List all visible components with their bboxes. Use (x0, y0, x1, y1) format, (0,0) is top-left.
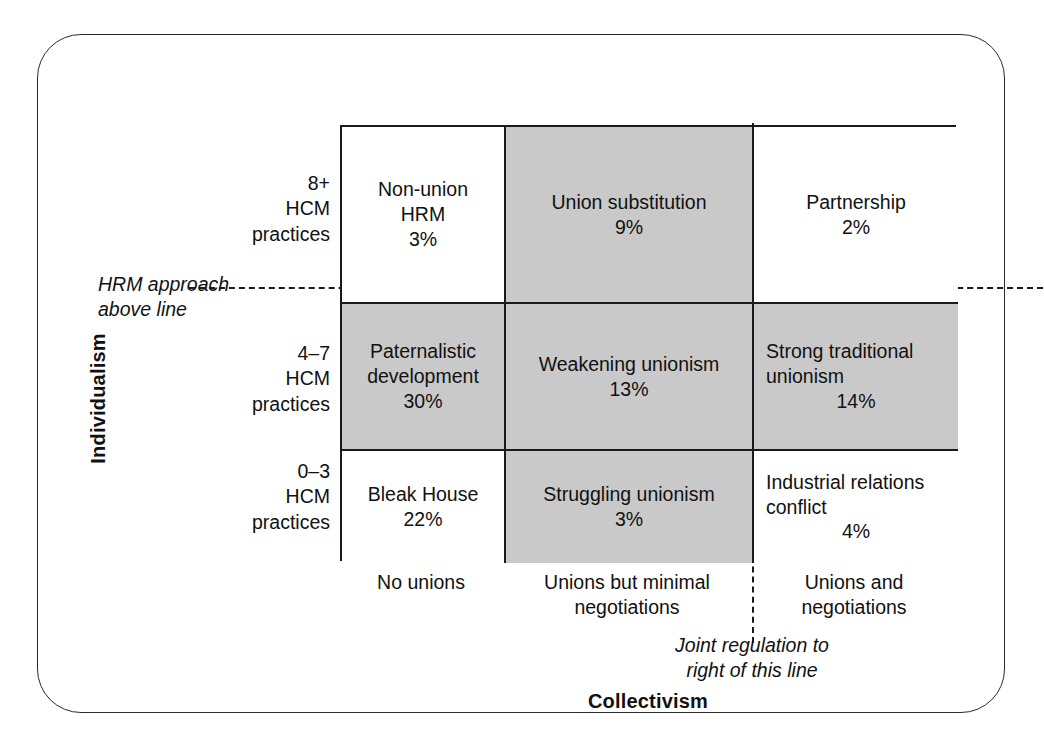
joint-regulation-annotation-line2: right of this line (598, 658, 906, 683)
matrix-cell-strong-traditional-unionism: Strong traditional unionism 14% (754, 302, 958, 449)
matrix-cell-percent: 22% (354, 507, 492, 532)
y-tick-bottom-line3: practices (150, 510, 330, 535)
x-tick-2-line1: Unions but minimal (508, 570, 746, 595)
x-axis-tick-labels: No unions Unions but minimal negotiation… (340, 570, 956, 621)
x-axis-tick-label-unions-negotiations: Unions and negotiations (752, 570, 956, 621)
x-axis-title: Collectivism (340, 690, 956, 713)
matrix-cell-label: Bleak House (354, 482, 492, 507)
matrix-cell-label: Struggling unionism (518, 482, 740, 507)
matrix-container: Non-union HRM 3% Union substitution 9% P… (340, 125, 956, 561)
matrix-cell-percent: 9% (518, 215, 740, 240)
matrix-cell-struggling-unionism: Struggling unionism 3% (504, 449, 754, 563)
matrix-cell-percent: 13% (518, 377, 740, 402)
matrix-cell-label: Strong traditional unionism (766, 339, 946, 389)
y-tick-top-line2: HCM (150, 196, 330, 221)
y-tick-mid-line3: practices (150, 392, 330, 417)
y-tick-bottom-line2: HCM (150, 484, 330, 509)
matrix-cell-partnership: Partnership 2% (754, 127, 958, 302)
y-tick-bottom-line1: 0–3 (150, 459, 330, 484)
matrix-cell-percent: 3% (518, 507, 740, 532)
y-axis-title: Individualism (87, 299, 110, 499)
x-tick-2-line2: negotiations (508, 595, 746, 620)
joint-regulation-annotation-line1: Joint regulation to (598, 633, 906, 658)
matrix-cell-label: Industrial relations conflict (766, 470, 946, 520)
matrix-cell-label: Weakening unionism (518, 352, 740, 377)
x-tick-1-line1: No unions (346, 570, 496, 595)
y-axis-tick-label-bottom: 0–3 HCM practices (150, 459, 330, 535)
joint-regulation-annotation: Joint regulation to right of this line (598, 633, 906, 683)
y-tick-top-line1: 8+ (150, 171, 330, 196)
matrix-cell-label: Partnership (766, 190, 946, 215)
y-tick-mid-line2: HCM (150, 366, 330, 391)
matrix-cell-weakening-unionism: Weakening unionism 13% (504, 302, 754, 449)
matrix-cell-percent: 30% (354, 389, 492, 414)
x-axis-tick-label-unions-minimal: Unions but minimal negotiations (502, 570, 752, 621)
hrm-approach-annotation: HRM approach above line (98, 272, 330, 322)
matrix-cell-percent: 14% (766, 389, 946, 414)
matrix-cell-bleak-house: Bleak House 22% (342, 449, 504, 563)
matrix-cell-label: Non-union HRM (354, 177, 492, 227)
diagram-frame: Individualism 8+ HCM practices 4–7 HCM p… (37, 34, 1005, 713)
matrix-cell-percent: 4% (766, 519, 946, 544)
y-tick-top-line3: practices (150, 222, 330, 247)
y-axis-tick-label-top: 8+ HCM practices (150, 171, 330, 247)
x-axis-tick-label-no-unions: No unions (340, 570, 502, 621)
matrix-cell-industrial-relations-conflict: Industrial relations conflict 4% (754, 449, 958, 563)
matrix-cell-nonunion-hrm: Non-union HRM 3% (342, 127, 504, 302)
matrix-cell-percent: 2% (766, 215, 946, 240)
y-axis-tick-label-middle: 4–7 HCM practices (150, 341, 330, 417)
matrix-cell-label: Paternalistic development (354, 339, 492, 389)
hrm-approach-annotation-line2: above line (98, 297, 330, 322)
matrix-cell-union-substitution: Union substitution 9% (504, 127, 754, 302)
matrix-cell-paternalistic-development: Paternalistic development 30% (342, 302, 504, 449)
x-tick-3-line1: Unions and (758, 570, 950, 595)
x-tick-3-line2: negotiations (758, 595, 950, 620)
matrix-cell-label: Union substitution (518, 190, 740, 215)
matrix-cell-percent: 3% (354, 227, 492, 252)
hrm-approach-annotation-line1: HRM approach (98, 272, 330, 297)
y-tick-mid-line1: 4–7 (150, 341, 330, 366)
matrix-grid: Non-union HRM 3% Union substitution 9% P… (340, 125, 956, 561)
